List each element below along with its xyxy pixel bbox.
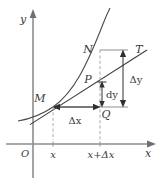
tangent-line-MT: [30, 50, 147, 125]
delta-y-label: Δy: [130, 74, 143, 85]
point-label-N: N: [82, 43, 93, 56]
delta-y-measure: [120, 50, 126, 108]
x-tick-label-x: x: [50, 149, 56, 160]
function-curve: [18, 8, 110, 121]
delta-y-arrowhead-top: [120, 50, 126, 58]
point-label-P: P: [83, 73, 92, 86]
delta-x-arrowhead-right: [93, 104, 101, 110]
delta-y-arrowhead-bottom: [120, 100, 126, 108]
delta-x-measure: [53, 104, 101, 110]
point-label-M: M: [33, 92, 46, 105]
point-label-T: T: [135, 43, 144, 56]
delta-x-label: Δx: [69, 115, 82, 126]
dy-label: dy: [106, 89, 118, 100]
x-axis-label: x: [145, 147, 152, 160]
differential-diagram-figure: M N P Q T Δx Δy dy y x O x x+Δx: [0, 0, 159, 183]
x-tick-label-x-plus-delta-x: x+Δx: [88, 149, 115, 160]
origin-label: O: [21, 148, 29, 159]
y-axis-arrowhead: [30, 9, 37, 18]
point-label-Q: Q: [101, 108, 110, 121]
diagram-canvas: M N P Q T Δx Δy dy y x O x x+Δx: [0, 0, 159, 183]
y-axis-label: y: [19, 13, 27, 26]
